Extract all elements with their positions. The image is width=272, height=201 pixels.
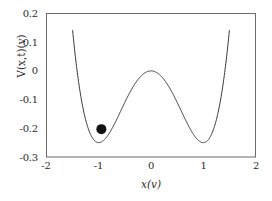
- x-axis-label: x(v): [46, 178, 256, 190]
- xtick-label: 2: [244, 160, 268, 171]
- y-axis-label: V(x,t)(v): [15, 6, 27, 106]
- xtick-label: -2: [34, 160, 58, 171]
- ball-marker: [96, 124, 106, 134]
- figure-double-well-potential: 0.2 0.1 0 -0.1 -0.2 -0.3 -2 -1 0 1 2 V(x…: [0, 0, 272, 201]
- axes-frame: [47, 14, 256, 158]
- ytick-label: -0.3: [4, 152, 38, 163]
- xtick-label: 0: [139, 160, 163, 171]
- ytick-label: -0.2: [4, 123, 38, 134]
- xtick-label: 1: [192, 160, 216, 171]
- xtick-label: -1: [87, 160, 111, 171]
